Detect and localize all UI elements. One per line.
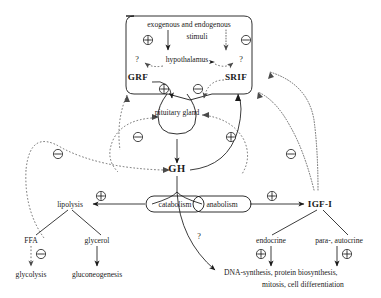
arrowhead-gh-srif <box>235 94 241 101</box>
sign-longloop-minus-left <box>53 149 62 158</box>
edge-hypothalamus-srif <box>215 63 233 66</box>
sign-stimuli-plus <box>143 35 152 44</box>
sign-shortloop-plus <box>226 132 235 141</box>
diagram-canvas: exogenous and endogenous stimuli hypotha… <box>0 0 381 298</box>
annotation-question-left: ? <box>135 55 139 64</box>
edge-igf1-autocrine <box>323 210 348 235</box>
sign-endocrine-plus <box>256 249 265 258</box>
node-pituitary-gland: pituitary gland <box>155 108 200 117</box>
node-gh: GH <box>168 163 186 174</box>
sign-igf1-plus <box>267 191 276 200</box>
sign-autocrine-plus <box>342 249 351 258</box>
node-hypothalamus: hypothalamus <box>166 55 209 64</box>
edge-gh-longloop-left-tail <box>26 170 44 238</box>
edge-lipolysis-ffa <box>36 210 68 235</box>
node-gluconeogenesis: gluconeogenesis <box>72 270 122 279</box>
edge-gh-srif-stimulatory <box>190 94 241 170</box>
edge-hypothalamus-grf <box>145 63 163 67</box>
sign-grf-plus <box>159 84 168 93</box>
sign-glycolysis-minus <box>36 249 45 258</box>
sign-stimuli-minus <box>241 35 250 44</box>
node-effects-line2: mitosis, cell differentiation <box>262 280 344 289</box>
node-stimuli-line2: stimuli <box>186 32 207 41</box>
edge-lipolysis-glycerol <box>72 210 101 235</box>
edge-igf1-longloop-pituitary <box>270 72 318 190</box>
arrowhead-hypothalamus-right <box>209 60 215 64</box>
node-glycerol: glycerol <box>85 236 110 245</box>
sign-srif-minus <box>193 84 202 93</box>
edge-gh-longloop-left <box>26 142 163 170</box>
node-grf: GRF <box>128 72 148 82</box>
edge-shortloop-left <box>110 118 152 172</box>
edge-igf1-endocrine <box>272 210 317 235</box>
sign-lipolysis-plus <box>96 191 105 200</box>
node-srif: SRIF <box>225 72 247 82</box>
node-glycolysis: glycolysis <box>16 270 47 279</box>
edge-shortloop-up-left <box>119 95 127 150</box>
node-lipolysis: lipolysis <box>57 200 83 209</box>
annotation-question-right: ? <box>239 55 243 64</box>
arrowhead-shortloop-up-left <box>124 95 130 102</box>
arrowhead-shortloop-right <box>202 112 209 118</box>
node-igf1: IGF-I <box>308 199 333 209</box>
sign-longloop-minus-right <box>286 149 295 158</box>
annotation-question-gh-effects: ? <box>197 232 201 241</box>
node-para-autocrine: para-, autocrine <box>315 236 363 245</box>
pathway-diagram: exogenous and endogenous stimuli hypotha… <box>0 0 381 298</box>
node-ffa: FFA <box>24 236 38 245</box>
node-catabolism: catabolism <box>159 200 192 209</box>
edge-igf1-longloop-hypothalamus <box>258 92 314 190</box>
node-effects-line1: DNA-synthesis, protein biosynthesis, <box>224 268 338 277</box>
node-endocrine: endocrine <box>256 236 287 245</box>
node-stimuli-line1: exogenous and endogenous <box>147 20 231 29</box>
sign-shortloop-minus <box>133 132 142 141</box>
node-anabolism: anabolism <box>206 200 237 209</box>
